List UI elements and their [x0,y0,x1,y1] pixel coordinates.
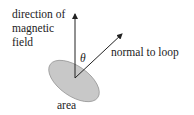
normal-label: normal to loop [111,46,179,60]
theta-angle-label: θ [80,52,86,66]
field-label-line3: field [12,36,33,50]
field-label-line1: direction of [12,8,65,22]
area-label: area [57,99,76,113]
field-label-line2: magnetic [12,22,54,36]
